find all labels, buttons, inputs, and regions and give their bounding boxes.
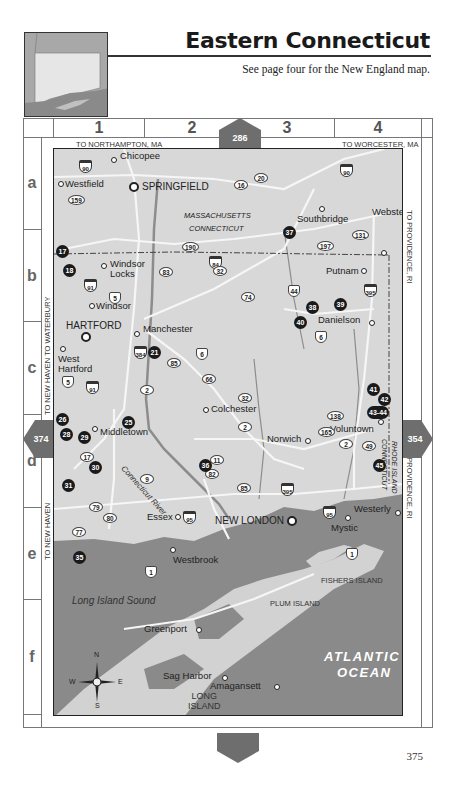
island-label-long-line1: LONG: [188, 691, 221, 701]
town-voluntown: Voluntown: [330, 424, 374, 434]
town-amagansett: Amagansett: [210, 681, 261, 691]
town-manchester: Manchester: [143, 324, 193, 334]
state-route-190: 190: [182, 242, 199, 252]
town-marker-norwich: [305, 438, 311, 444]
poi-marker-38[interactable]: 38: [306, 301, 319, 314]
state-label-rhode-island: RHODE ISLAND: [391, 441, 398, 494]
poi-marker-18[interactable]: 18: [63, 264, 76, 277]
state-route-2-west: 2: [140, 385, 154, 395]
interstate-91-shield-north: 91: [84, 279, 97, 292]
town-westerly: Westerly: [354, 504, 391, 514]
poi-marker-35[interactable]: 35: [73, 551, 86, 564]
state-route-131: 131: [352, 230, 369, 240]
compass-rose: N S W E: [72, 654, 122, 710]
compass-e: E: [118, 678, 123, 685]
us-route-6-shield-east: 6: [315, 331, 327, 343]
poi-marker-29[interactable]: 29: [78, 431, 91, 444]
row-header-f: f: [23, 600, 41, 715]
row-header-e: e: [23, 508, 41, 600]
town-marker-southbridge: [319, 206, 325, 212]
water-label-atlantic: ATLANTIC: [324, 649, 400, 664]
state-route-83: 83: [159, 267, 173, 277]
row-header-a: a: [23, 137, 41, 230]
poi-marker-43-44[interactable]: 43-44: [367, 406, 389, 419]
poi-marker-25[interactable]: 25: [122, 416, 135, 429]
edge-label-providence-upper: TO PROVIDENCE, RI: [405, 210, 414, 284]
compass-s: S: [95, 702, 100, 709]
us-route-1-shield-east: 1: [346, 548, 358, 560]
row-header-b: b: [23, 230, 41, 322]
poi-marker-26[interactable]: 26: [56, 413, 69, 426]
town-westbrook: Westbrook: [173, 555, 218, 565]
column-header-corner: [23, 118, 54, 137]
interstate-395-shield-north: 395: [364, 284, 377, 297]
town-marker-danielson: [369, 320, 375, 326]
town-southbridge: Southbridge: [297, 214, 348, 224]
town-webster: Webster: [372, 207, 403, 217]
poi-marker-37[interactable]: 37: [283, 226, 296, 239]
us-route-6-shield-west: 6: [196, 348, 208, 360]
poi-marker-36[interactable]: 36: [199, 459, 212, 472]
town-sag-harbor: Sag Harbor: [163, 671, 212, 681]
interstate-95-shield-west: 95: [183, 511, 196, 524]
town-marker-manchester: [134, 331, 140, 337]
town-marker-westfield: [58, 181, 64, 187]
poi-marker-42[interactable]: 42: [378, 393, 391, 406]
poi-marker-28[interactable]: 28: [60, 428, 73, 441]
city-springfield: SPRINGFIELD: [142, 182, 209, 192]
poi-marker-17[interactable]: 17: [56, 245, 69, 258]
city-marker-springfield: [129, 182, 139, 192]
interstate-395-shield-south: 395: [281, 483, 294, 496]
state-route-11: 11: [210, 455, 224, 465]
state-route-197: 197: [317, 241, 334, 251]
poi-marker-21[interactable]: 21: [148, 346, 161, 359]
town-westfield: Westfield: [65, 179, 104, 189]
state-route-85-south: 85: [237, 483, 251, 493]
poi-marker-39[interactable]: 39: [334, 298, 347, 311]
town-windsor-locks: Windsor Locks: [110, 259, 150, 280]
state-route-85-north: 85: [167, 358, 181, 368]
inset-map-graphic: [25, 33, 108, 117]
town-putnam: Putnam: [326, 266, 359, 276]
island-label-fishers: FISHERS ISLAND: [321, 576, 383, 585]
state-route-17: 17: [80, 452, 94, 462]
town-marker-amagansett: [274, 684, 280, 690]
compass-w: W: [69, 678, 76, 685]
column-header-4: 4: [335, 118, 422, 137]
interstate-91-shield-south: 91: [86, 381, 99, 394]
poi-marker-45[interactable]: 45: [373, 459, 386, 472]
map-area: MASSACHUSETTS CONNECTICUT RHODE ISLAND C…: [53, 148, 403, 716]
state-route-2-middle: 2: [238, 422, 252, 432]
town-marker-middletown: [92, 426, 98, 432]
state-label-massachusetts: MASSACHUSETTS: [184, 212, 251, 220]
town-marker-windsor: [89, 303, 95, 309]
town-marker-greenport: [196, 627, 202, 633]
state-route-165: 165: [318, 427, 335, 437]
city-hartford: HARTFORD: [66, 321, 121, 331]
state-route-32-north: 32: [213, 266, 227, 276]
city-marker-new-london: [287, 516, 297, 526]
town-middletown: Middletown: [100, 427, 148, 437]
state-route-16-b: 16: [234, 180, 248, 190]
town-marker-west-hartford: [60, 346, 66, 352]
edge-label-new-haven-waterbury: TO NEW HAVEN TO WATERBURY: [43, 235, 52, 415]
row-header-c: c: [23, 322, 41, 415]
state-route-74: 74: [241, 292, 255, 302]
page-link-south[interactable]: [217, 733, 259, 763]
state-route-138: 138: [327, 411, 344, 421]
column-header-1: 1: [54, 118, 145, 137]
town-mystic: Mystic: [331, 523, 358, 533]
state-label-connecticut: CONNECTICUT: [189, 225, 244, 233]
state-route-79: 79: [89, 502, 103, 512]
poi-marker-30[interactable]: 30: [89, 461, 102, 474]
page-subtitle: See page four for the New England map.: [242, 63, 430, 75]
poi-marker-40[interactable]: 40: [294, 316, 307, 329]
island-label-plum: PLUM ISLAND: [270, 599, 320, 608]
state-route-66: 66: [202, 374, 216, 384]
locator-inset-map: [24, 32, 108, 117]
poi-marker-31[interactable]: 31: [62, 479, 75, 492]
town-danielson: Danielson: [318, 315, 360, 325]
state-route-80: 80: [103, 513, 117, 523]
poi-marker-41[interactable]: 41: [367, 383, 380, 396]
state-route-77: 77: [72, 527, 86, 537]
